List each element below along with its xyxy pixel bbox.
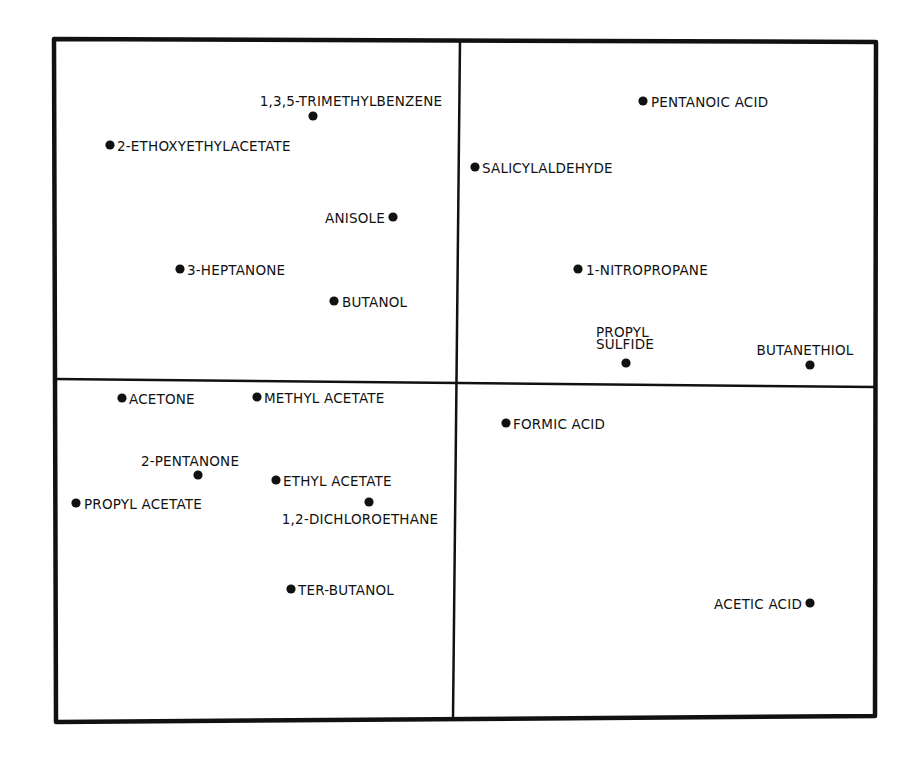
point-marker-icon: [71, 498, 80, 507]
point-marker-icon: [175, 264, 184, 273]
point-label: PROPYLSULFIDE: [596, 324, 654, 352]
point-marker-icon: [501, 418, 510, 427]
point-marker-icon: [105, 140, 114, 149]
data-point-formic-acid: FORMIC ACID: [501, 416, 605, 432]
point-marker-icon: [621, 358, 630, 367]
data-point-propyl-sulfide: PROPYLSULFIDE: [596, 324, 654, 368]
data-point-2-ethoxyethylacetate: 2-ETHOXYETHYLACETATE: [105, 138, 290, 154]
point-label: SALICYLALDEHYDE: [482, 160, 613, 176]
point-label: ACETIC ACID: [714, 596, 802, 612]
point-label: METHYL ACETATE: [264, 390, 385, 406]
data-point-anisole: ANISOLE: [325, 210, 398, 226]
point-marker-icon: [271, 475, 280, 484]
point-marker-icon: [470, 162, 479, 171]
point-marker-icon: [573, 264, 582, 273]
data-point-acetone: ACETONE: [117, 391, 194, 407]
horizontal-quadrant-divider: [55, 379, 875, 387]
data-point-2-pentanone: 2-PENTANONE: [141, 453, 239, 480]
data-point-propyl-acetate: PROPYL ACETATE: [71, 496, 202, 512]
scatter-quadrant-chart: 1,3,5-TRIMETHYLBENZENE2-ETHOXYETHYLACETA…: [0, 0, 920, 769]
point-label: 1,2-DICHLOROETHANE: [282, 511, 438, 527]
data-point-ethyl-acetate: ETHYL ACETATE: [271, 473, 391, 489]
point-label: ANISOLE: [325, 210, 385, 226]
data-points: 1,3,5-TRIMETHYLBENZENE2-ETHOXYETHYLACETA…: [71, 93, 853, 612]
point-marker-icon: [252, 392, 261, 401]
point-marker-icon: [638, 96, 647, 105]
point-label: TER-BUTANOL: [297, 582, 394, 598]
point-label: BUTANOL: [342, 294, 408, 310]
data-point-1-2-dichloroethane: 1,2-DICHLOROETHANE: [282, 497, 438, 527]
point-marker-icon: [329, 296, 338, 305]
point-marker-icon: [117, 393, 126, 402]
point-label: BUTANETHIOL: [757, 342, 854, 358]
point-marker-icon: [388, 212, 397, 221]
data-point-pentanoic-acid: PENTANOIC ACID: [638, 94, 768, 110]
point-label: 2-ETHOXYETHYLACETATE: [117, 138, 291, 154]
point-marker-icon: [805, 360, 814, 369]
point-label: PROPYL ACETATE: [84, 496, 202, 512]
point-marker-icon: [308, 111, 317, 120]
data-point-1-nitropropane: 1-NITROPROPANE: [573, 262, 707, 278]
point-label: ETHYL ACETATE: [283, 473, 392, 489]
point-label: 1-NITROPROPANE: [586, 262, 708, 278]
point-label: 3-HEPTANONE: [187, 262, 285, 278]
point-marker-icon: [805, 598, 814, 607]
point-label: PENTANOIC ACID: [651, 94, 768, 110]
point-marker-icon: [286, 584, 295, 593]
data-point-1-3-5-trimethylbenzene: 1,3,5-TRIMETHYLBENZENE: [260, 93, 443, 121]
data-point-salicylaldehyde: SALICYLALDEHYDE: [470, 160, 612, 176]
point-label: FORMIC ACID: [513, 416, 605, 432]
data-point-acetic-acid: ACETIC ACID: [714, 596, 815, 612]
data-point-methyl-acetate: METHYL ACETATE: [252, 390, 384, 406]
point-marker-icon: [193, 470, 202, 479]
point-label: ACETONE: [129, 391, 195, 407]
data-point-butanol: BUTANOL: [329, 294, 407, 310]
point-label: 2-PENTANONE: [141, 453, 239, 469]
data-point-ter-butanol: TER-BUTANOL: [286, 582, 394, 598]
vertical-quadrant-divider: [453, 40, 460, 719]
point-marker-icon: [364, 497, 373, 506]
data-point-3-heptanone: 3-HEPTANONE: [175, 262, 285, 278]
point-label: 1,3,5-TRIMETHYLBENZENE: [260, 93, 443, 109]
data-point-butanethiol: BUTANETHIOL: [757, 342, 854, 370]
